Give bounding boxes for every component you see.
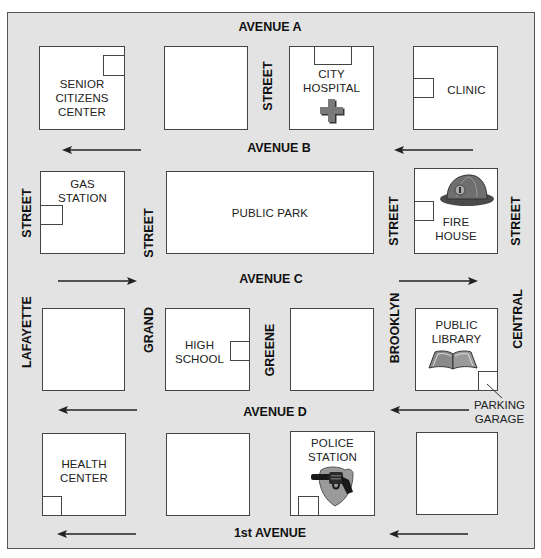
health-label-line1: HEALTH — [43, 457, 125, 471]
street-label-col3-top: STREET — [261, 61, 275, 110]
library-label-line1: PUBLIC — [416, 318, 497, 332]
health-label-line2: CENTER — [43, 471, 125, 485]
block-clinic: CLINIC — [413, 46, 498, 130]
block-police-station: POLICE STATION — [290, 431, 375, 516]
street-label-central: CENTRAL — [511, 289, 525, 349]
street-label-lafayette-top: STREET — [20, 188, 34, 237]
badge-revolver-icon — [309, 464, 359, 508]
block-city-hospital: CITY HOSPITAL — [289, 46, 374, 130]
entrance-marker — [40, 205, 63, 225]
arrow-left-icon — [58, 405, 138, 415]
block-high-school: HIGH SCHOOL — [165, 308, 250, 391]
arrow-left-icon — [390, 405, 470, 415]
block-empty-r3c3 — [290, 308, 374, 391]
park-label: PUBLIC PARK — [167, 206, 373, 220]
gas-label-line1: GAS — [41, 177, 124, 191]
avenue-c-label: AVENUE C — [239, 272, 303, 286]
hospital-label-line2: HOSPITAL — [290, 81, 373, 95]
block-public-park: PUBLIC PARK — [166, 171, 374, 254]
entrance-marker — [103, 55, 125, 76]
school-label-line2: SCHOOL — [166, 352, 233, 366]
parking-garage-label: PARKING GARAGE — [474, 398, 525, 426]
avenue-d-label: AVENUE D — [243, 405, 307, 419]
police-label-line1: POLICE — [291, 436, 374, 450]
arrow-left-icon — [62, 145, 142, 155]
street-label-brooklyn: BROOKLYN — [388, 293, 402, 363]
block-empty-r3c1 — [42, 308, 125, 391]
senior-label-line1: SENIOR — [40, 77, 124, 91]
street-label-greene: GREENE — [263, 324, 277, 377]
entrance-marker — [413, 78, 434, 98]
hospital-label-line1: CITY — [290, 67, 373, 81]
entrance-marker — [42, 496, 62, 516]
gas-label-line2: STATION — [41, 191, 124, 205]
avenue-b-label: AVENUE B — [247, 141, 311, 155]
parking-label-line1: PARKING — [474, 398, 525, 412]
library-label-line2: LIBRARY — [416, 332, 497, 346]
first-avenue-label: 1st AVENUE — [234, 526, 306, 540]
open-book-icon — [427, 348, 479, 370]
cross-icon — [317, 96, 345, 124]
arrow-right-icon — [57, 276, 137, 286]
block-empty-r4c4 — [416, 432, 498, 515]
block-public-library: PUBLIC LIBRARY — [415, 308, 498, 391]
arrow-left-icon — [389, 529, 469, 539]
block-gas-station: GAS STATION — [40, 171, 125, 254]
arrow-left-icon — [57, 529, 137, 539]
fire-label-line2: HOUSE — [415, 229, 497, 243]
police-label-line2: STATION — [291, 450, 374, 464]
street-label-grand-top: STREET — [142, 208, 156, 257]
block-health-center: HEALTH CENTER — [42, 433, 126, 516]
clinic-label: CLINIC — [436, 83, 497, 97]
street-label-central-top: STREET — [509, 196, 523, 245]
street-label-brooklyn-top: STREET — [387, 196, 401, 245]
senior-label-line2: CITIZENS — [40, 91, 124, 105]
parking-label-line2: GARAGE — [474, 412, 525, 426]
block-senior-citizens-center: SENIOR CITIZENS CENTER — [39, 46, 125, 130]
school-label-line1: HIGH — [166, 338, 233, 352]
entrance-marker — [314, 46, 352, 65]
block-empty-r1c2 — [164, 46, 248, 130]
street-label-grand: GRAND — [142, 307, 156, 353]
entrance-marker — [230, 341, 250, 361]
senior-label-line3: CENTER — [40, 105, 124, 119]
arrow-left-icon — [394, 145, 474, 155]
avenue-a-label: AVENUE A — [238, 20, 301, 34]
block-empty-r4c2 — [166, 433, 250, 516]
fire-helmet-icon — [437, 173, 495, 209]
fire-label-line1: FIRE — [415, 215, 497, 229]
arrow-right-icon — [398, 276, 478, 286]
street-label-lafayette: LAFAYETTE — [20, 296, 34, 368]
block-fire-house: FIRE HOUSE — [414, 168, 498, 254]
